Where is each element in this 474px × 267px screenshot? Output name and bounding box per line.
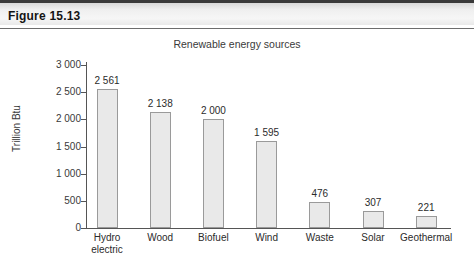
bar-value-label: 221 bbox=[396, 202, 456, 213]
y-axis-tick-label: 2 000 bbox=[35, 113, 81, 124]
bar-chart: Renewable energy sources Trillion Btu 3 … bbox=[0, 29, 474, 267]
bar-value-label: 2 000 bbox=[183, 105, 243, 116]
x-axis-category-line: Waste bbox=[290, 232, 350, 244]
bar-value-label: 476 bbox=[290, 188, 350, 199]
x-axis-category-line: Geothermal bbox=[396, 232, 456, 244]
x-axis-category-line: Biofuel bbox=[183, 232, 243, 244]
y-axis-tick bbox=[81, 201, 86, 202]
bar bbox=[256, 141, 277, 228]
x-axis-category-line: Wind bbox=[237, 232, 297, 244]
figure-number-label: Figure 15.13 bbox=[8, 9, 80, 23]
bar bbox=[203, 119, 224, 228]
y-axis-tick bbox=[81, 92, 86, 93]
bar bbox=[363, 211, 384, 228]
x-axis-line bbox=[86, 228, 451, 229]
bar bbox=[416, 216, 437, 228]
figure-header-band: Figure 15.13 bbox=[0, 0, 474, 25]
bar-value-label: 2 561 bbox=[77, 75, 137, 86]
x-axis-category-label: Biofuel bbox=[183, 232, 243, 244]
bar bbox=[97, 89, 118, 228]
x-axis-category-label: Wind bbox=[237, 232, 297, 244]
bar-value-label: 307 bbox=[343, 197, 403, 208]
x-axis-category-line: Solar bbox=[343, 232, 403, 244]
y-axis-tick-label: 2 500 bbox=[35, 86, 81, 97]
bar bbox=[150, 112, 171, 228]
x-axis-category-line: Hydro bbox=[77, 232, 137, 244]
y-axis-ticks: 3 0002 5002 0001 5001 0005000 bbox=[0, 29, 81, 267]
y-axis-tick-label: 500 bbox=[35, 195, 81, 206]
y-axis-tick-label: 0 bbox=[35, 222, 81, 233]
x-axis-category-line: electric bbox=[77, 244, 137, 256]
x-axis-category-label: Geothermal bbox=[396, 232, 456, 244]
bar bbox=[309, 202, 330, 228]
x-axis-category-label: Solar bbox=[343, 232, 403, 244]
y-axis-tick-label: 1 500 bbox=[35, 141, 81, 152]
y-axis-tick-label: 3 000 bbox=[35, 59, 81, 70]
y-axis-tick-label: 1 000 bbox=[35, 168, 81, 179]
x-axis-category-label: Wood bbox=[130, 232, 190, 244]
y-axis-tick bbox=[81, 119, 86, 120]
x-axis-category-label: Waste bbox=[290, 232, 350, 244]
y-axis-tick bbox=[81, 174, 86, 175]
bar-value-label: 2 138 bbox=[130, 98, 190, 109]
y-axis-line bbox=[86, 62, 87, 229]
y-axis-tick bbox=[81, 147, 86, 148]
bar-value-label: 1 595 bbox=[237, 127, 297, 138]
x-axis-category-label: Hydroelectric bbox=[77, 232, 137, 256]
y-axis-tick bbox=[81, 65, 86, 66]
x-axis-category-line: Wood bbox=[130, 232, 190, 244]
y-axis-tick bbox=[81, 228, 86, 229]
